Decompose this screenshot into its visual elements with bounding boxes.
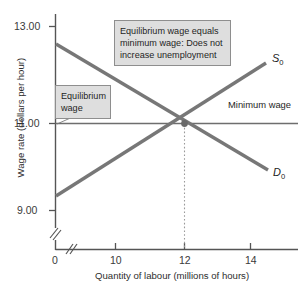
equilibrium-point-marker — [181, 120, 188, 127]
equilibrium-wage-annotation-box: Equilibrium wage — [55, 85, 111, 119]
labour-market-minimum-wage-chart: Wage rate (dollars per hour) Quantity of… — [0, 0, 300, 287]
minimum-wage-label-text: Minimum wage — [228, 99, 291, 110]
main-annotation-box: Equilibrium wage equals minimum wage: Do… — [114, 20, 231, 66]
supply-curve — [56, 63, 266, 196]
demand-curve-label-letter: D — [273, 166, 281, 178]
x-axis-title: Quantity of labour (millions of hours) — [95, 270, 249, 281]
x-tick-label-14: 14 — [245, 254, 257, 266]
x-tick-label-12: 12 — [179, 254, 191, 266]
demand-curve-label: D0 — [273, 166, 285, 182]
y-tick-label-13: 13.00 — [14, 20, 40, 32]
demand-curve-label-subscript: 0 — [281, 172, 285, 181]
y-tick-label-11: 11.00 — [14, 117, 40, 129]
y-tick-label-9: 9.00 — [17, 204, 37, 216]
y-axis-break-icon — [50, 228, 61, 240]
supply-curve-label: S0 — [272, 52, 284, 68]
supply-curve-label-subscript: 0 — [279, 58, 283, 67]
x-tick-label-0: 0 — [52, 254, 58, 266]
x-tick-label-10: 10 — [110, 254, 122, 266]
minimum-wage-label: Minimum wage — [228, 99, 291, 111]
